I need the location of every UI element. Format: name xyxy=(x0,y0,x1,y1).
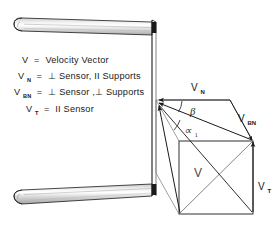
legend-equals-1: = xyxy=(37,71,43,81)
legend-equals-3: = xyxy=(44,104,50,114)
legend-symbol-2: V xyxy=(14,87,21,97)
vector-labels: V N V BN V T V xyxy=(191,82,271,194)
v-label: V xyxy=(194,166,202,180)
legend-row-3: V T = II Sensor xyxy=(26,104,94,117)
legend-definition-3: II Sensor xyxy=(55,104,94,114)
upper-sensor-cone xyxy=(14,18,152,35)
legend-symbol-3: V xyxy=(26,104,33,114)
legend-symbol-0: V xyxy=(22,55,29,65)
v-cube-diagonal xyxy=(180,142,252,213)
legend-definition-0: Velocity Vector xyxy=(45,55,108,65)
legend-definition-1: ⊥ Sensor, II Supports xyxy=(48,71,141,81)
diagram-canvas: V = Velocity Vector V N = ⊥ Sensor, II S… xyxy=(0,0,278,235)
beta-arc xyxy=(179,101,183,112)
legend: V = Velocity Vector V N = ⊥ Sensor, II S… xyxy=(14,55,144,117)
vt-label-symbol: V xyxy=(258,181,265,192)
legend-subscript-3: T xyxy=(35,110,39,116)
velocity-vector-diagram: V = Velocity Vector V N = ⊥ Sensor, II S… xyxy=(0,0,278,235)
vbn-label: V BN xyxy=(238,113,256,126)
beta-angle-label: β xyxy=(189,106,196,117)
alpha-angle-label: ∝ 1 xyxy=(184,125,198,138)
legend-subscript-2: BN xyxy=(23,93,31,99)
legend-equals-0: = xyxy=(34,55,40,65)
lower-sensor-cone xyxy=(14,184,152,204)
vbn-label-subscript: BN xyxy=(247,120,256,126)
vn-label-symbol: V xyxy=(191,82,198,93)
legend-definition-2: ⊥ Sensor ,⊥ Supports xyxy=(48,87,144,97)
angle-labels: β ∝ 1 xyxy=(184,106,198,138)
vn-label: V N xyxy=(191,82,205,95)
legend-symbol-1: V xyxy=(18,71,25,81)
alpha-angle-subscript: 1 xyxy=(195,132,198,138)
legend-row-1: V N = ⊥ Sensor, II Supports xyxy=(18,71,141,84)
vt-label: V T xyxy=(258,181,271,194)
legend-row-0: V = Velocity Vector xyxy=(22,55,109,65)
legend-equals-2: = xyxy=(37,87,43,97)
legend-subscript-1: N xyxy=(27,77,31,83)
legend-row-2: V BN = ⊥ Sensor ,⊥ Supports xyxy=(14,87,144,100)
vbn-label-symbol: V xyxy=(238,113,245,124)
alpha-angle-symbol: ∝ xyxy=(184,125,192,136)
vt-label-subscript: T xyxy=(267,188,271,194)
vn-label-subscript: N xyxy=(200,89,204,95)
